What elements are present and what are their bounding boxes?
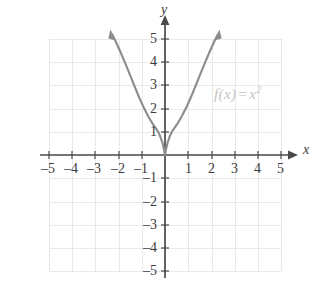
y-tick-label--4: –4 (143, 241, 157, 255)
y-tick-label--3: –3 (143, 218, 157, 232)
x-tick-label--5: –5 (41, 162, 55, 176)
y-tick-label-3: 3 (150, 78, 157, 92)
x-tick-label-4: 4 (254, 162, 261, 176)
x-axis (40, 151, 298, 160)
function-label-f: f(x) (214, 86, 236, 102)
y-axis-label: y (161, 3, 167, 17)
y-tick-label--1: –1 (143, 171, 157, 185)
x-tick-label--3: –3 (87, 162, 101, 176)
x-tick-label-1: 1 (185, 162, 192, 176)
y-tick-label--2: –2 (143, 195, 157, 209)
x-tick-label--4: –4 (64, 162, 78, 176)
graph-figure: –5 –4 –3 –2 –1 1 2 3 4 5 5 4 3 2 1 –1 –2… (0, 0, 322, 287)
function-label-equals: = (236, 86, 249, 102)
x-tick-label--2: –2 (111, 162, 125, 176)
y-tick-label-4: 4 (150, 55, 157, 69)
x-tick-label-3: 3 (231, 162, 238, 176)
y-tick-label-5: 5 (150, 32, 157, 46)
y-tick-label-2: 2 (150, 102, 157, 116)
y-axis (161, 15, 170, 278)
function-label: f(x)=x2 (214, 85, 262, 102)
coordinate-plane (0, 0, 322, 287)
x-axis-label: x (303, 143, 309, 157)
y-tick-label-1: 1 (150, 125, 157, 139)
x-tick-label-5: 5 (277, 162, 284, 176)
y-tick-label--5: –5 (143, 264, 157, 278)
function-label-exponent: 2 (256, 84, 261, 95)
x-tick-label-2: 2 (208, 162, 215, 176)
